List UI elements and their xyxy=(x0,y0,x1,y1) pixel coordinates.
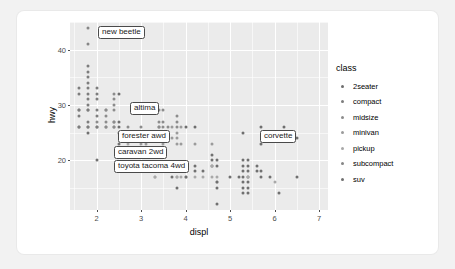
legend-label: suv xyxy=(353,175,365,184)
data-point xyxy=(278,192,281,195)
data-point xyxy=(117,120,120,123)
x-tick-mark xyxy=(230,210,231,212)
data-point xyxy=(77,115,80,118)
legend-label: 2seater xyxy=(353,82,378,91)
data-point xyxy=(242,186,245,189)
point-label-altima[interactable]: altima xyxy=(130,102,159,115)
screenshot-root: 234567203040 displ hwy class 2seatercomp… xyxy=(0,0,455,269)
data-point xyxy=(246,164,249,167)
legend-label: pickup xyxy=(353,144,375,153)
data-point xyxy=(86,98,89,101)
data-point xyxy=(269,175,272,178)
point-label-forester-awd[interactable]: forester awd xyxy=(118,130,170,143)
data-point xyxy=(175,120,178,123)
y-tick-label: 20 xyxy=(58,156,66,165)
data-point xyxy=(211,159,214,162)
data-point xyxy=(86,43,89,46)
data-point xyxy=(86,92,89,95)
legend-item-2seater[interactable]: 2seater xyxy=(335,79,435,93)
data-point xyxy=(211,164,214,167)
legend-item-midsize[interactable]: midsize xyxy=(335,110,435,124)
data-point xyxy=(238,175,241,178)
data-point xyxy=(113,109,116,112)
data-point xyxy=(246,159,249,162)
data-point xyxy=(113,126,116,129)
grid-line-horizontal xyxy=(70,50,328,51)
grid-line-minor-vertical xyxy=(74,22,75,210)
data-point xyxy=(202,175,205,178)
data-point xyxy=(104,115,107,118)
grid-line-minor-vertical xyxy=(163,22,164,210)
x-axis-title: displ xyxy=(70,227,328,237)
data-point xyxy=(180,175,183,178)
point-label-corvette[interactable]: corvette xyxy=(260,130,296,143)
data-point xyxy=(175,131,178,134)
x-tick-mark xyxy=(141,210,142,212)
data-point xyxy=(215,164,218,167)
y-tick-mark xyxy=(68,105,70,106)
data-point xyxy=(193,175,196,178)
y-tick-label: 40 xyxy=(58,45,66,54)
x-tick-label: 5 xyxy=(228,214,232,223)
data-point xyxy=(86,81,89,84)
data-point xyxy=(180,142,183,145)
legend: class 2seatercompactmidsizeminivanpickup… xyxy=(335,63,435,188)
data-point xyxy=(86,126,89,129)
data-point xyxy=(113,92,116,95)
data-point xyxy=(95,120,98,123)
data-point xyxy=(260,126,263,129)
grid-line-minor-vertical xyxy=(119,22,120,210)
data-point xyxy=(175,115,178,118)
data-point xyxy=(86,87,89,90)
grid-line-minor-vertical xyxy=(252,22,253,210)
legend-item-compact[interactable]: compact xyxy=(335,95,435,109)
data-point xyxy=(126,126,129,129)
data-point xyxy=(95,92,98,95)
legend-items: 2seatercompactmidsizeminivanpickupsubcom… xyxy=(335,79,435,186)
data-point xyxy=(113,120,116,123)
data-point xyxy=(104,120,107,123)
data-point xyxy=(246,186,249,189)
data-point xyxy=(211,142,214,145)
data-point xyxy=(95,109,98,112)
data-point xyxy=(113,98,116,101)
point-label-caravan-2wd[interactable]: caravan 2wd xyxy=(114,146,167,159)
data-point xyxy=(242,181,245,184)
data-point xyxy=(95,115,98,118)
data-point xyxy=(246,175,249,178)
data-point xyxy=(255,164,258,167)
data-point xyxy=(95,126,98,129)
data-point xyxy=(86,70,89,73)
data-point xyxy=(211,153,214,156)
legend-label: midsize xyxy=(353,113,378,122)
x-tick-label: 7 xyxy=(317,214,321,223)
scatter-plot: 234567203040 displ hwy class 2seatercomp… xyxy=(17,11,438,254)
legend-key-icon xyxy=(335,110,349,124)
data-point xyxy=(77,109,80,112)
data-point xyxy=(86,131,89,134)
legend-item-subcompact[interactable]: subcompact xyxy=(335,157,435,171)
point-label-new-beetle[interactable]: new beetle xyxy=(98,26,145,39)
data-point xyxy=(282,126,285,129)
data-point xyxy=(117,92,120,95)
point-label-toyota-tacoma-4wd[interactable]: toyota tacoma 4wd xyxy=(114,160,189,173)
plot-panel xyxy=(70,22,328,210)
legend-key-icon xyxy=(335,172,349,186)
legend-item-suv[interactable]: suv xyxy=(335,172,435,186)
data-point xyxy=(153,175,156,178)
data-point xyxy=(215,181,218,184)
legend-key-icon xyxy=(335,79,349,93)
data-point xyxy=(242,164,245,167)
data-point xyxy=(162,109,165,112)
y-tick-label: 30 xyxy=(58,100,66,109)
data-point xyxy=(171,126,174,129)
data-point xyxy=(175,142,178,145)
legend-label: subcompact xyxy=(353,159,393,168)
data-point xyxy=(157,120,160,123)
legend-item-minivan[interactable]: minivan xyxy=(335,126,435,140)
grid-line-minor-horizontal xyxy=(70,77,328,78)
data-point xyxy=(86,76,89,79)
data-point xyxy=(166,126,169,129)
data-point xyxy=(162,126,165,129)
legend-item-pickup[interactable]: pickup xyxy=(335,141,435,155)
